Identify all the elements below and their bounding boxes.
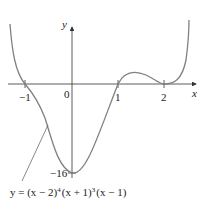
tick-label-neg1: −1 — [19, 91, 31, 103]
function-plot: x y −1 0 1 2 −16 y = (x − 2)4(x + 1)3(x … — [0, 0, 204, 204]
equation-label: y = (x − 2)4(x + 1)3(x − 1) — [10, 186, 127, 199]
equation-suffix: (x − 1) — [96, 186, 126, 199]
y-axis-label: y — [61, 18, 67, 30]
equation-mid: (x + 1) — [62, 186, 92, 199]
tick-label-1: 1 — [115, 91, 121, 103]
tick-label-neg16: −16 — [50, 167, 68, 179]
equation-exp3: 3 — [92, 186, 96, 194]
x-axis-label: x — [191, 87, 197, 99]
tick-label-0: 0 — [64, 88, 70, 100]
annotation-leader — [22, 125, 48, 181]
equation-prefix: y = (x − 2) — [10, 186, 58, 199]
tick-label-2: 2 — [161, 91, 167, 103]
equation-exp4: 4 — [57, 186, 61, 194]
